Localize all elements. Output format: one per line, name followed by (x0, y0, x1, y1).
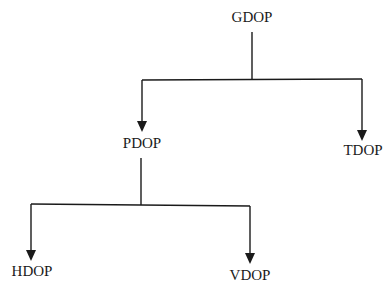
node-pdop: PDOP (123, 136, 161, 151)
tree-connectors (0, 0, 391, 293)
arrowhead-down-icon (137, 121, 147, 132)
pdop-branch-bar (31, 204, 250, 206)
arrowhead-down-icon (26, 250, 36, 261)
node-hdop: HDOP (12, 264, 53, 279)
arrowhead-down-icon (245, 253, 255, 264)
node-vdop: VDOP (230, 268, 271, 283)
node-tdop: TDOP (343, 143, 382, 158)
arrowhead-down-icon (357, 130, 367, 141)
node-gdop: GDOP (232, 10, 273, 25)
gdop-branch-bar (142, 79, 362, 80)
